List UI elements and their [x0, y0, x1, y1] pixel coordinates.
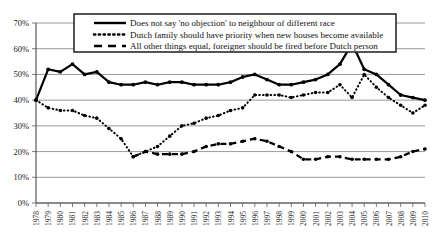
x-tick-label: 2006: [372, 211, 381, 226]
data-point: [326, 155, 330, 159]
data-point: [192, 83, 196, 87]
y-tick-label: 20%: [13, 147, 29, 157]
chart-canvas: 0%10%20%30%40%50%60%70% 1978197919801981…: [0, 0, 440, 244]
data-point: [95, 116, 99, 120]
x-tick-label: 2002: [324, 211, 333, 226]
data-point: [289, 83, 293, 87]
data-point: [265, 93, 269, 97]
data-point: [156, 152, 160, 156]
data-point: [83, 73, 87, 77]
x-tick-label: 1980: [56, 211, 65, 226]
data-point: [399, 103, 403, 107]
x-tick-label: 1981: [68, 211, 77, 226]
data-point: [180, 152, 184, 156]
y-tick-label: 0%: [18, 198, 29, 208]
data-point: [168, 80, 172, 84]
data-point: [374, 73, 378, 77]
data-point: [265, 78, 269, 82]
y-tick-label: 50%: [13, 69, 29, 79]
data-point: [387, 96, 391, 100]
y-tick-label: 70%: [13, 18, 29, 28]
data-point: [289, 150, 293, 154]
data-point: [423, 103, 427, 107]
x-tick-label: 2010: [421, 211, 430, 226]
data-point: [229, 142, 233, 146]
data-point: [350, 96, 354, 100]
data-point: [168, 152, 172, 156]
x-tick-label: 1989: [166, 211, 175, 226]
x-tick-label: 1978: [32, 211, 41, 226]
x-tick-label: 1987: [141, 211, 150, 226]
data-point: [375, 157, 379, 161]
x-tick-label: 1999: [287, 211, 296, 226]
data-point: [217, 114, 221, 118]
data-point: [289, 96, 293, 100]
data-point: [107, 80, 111, 84]
x-tick-label: 1993: [214, 211, 223, 226]
legend-label: Dutch family should have priority when n…: [130, 30, 383, 40]
y-tick-label: 40%: [13, 95, 29, 105]
data-point: [423, 98, 427, 102]
data-point: [46, 67, 50, 71]
data-point: [180, 124, 184, 128]
legend-label: All other things equal, foreigner should…: [130, 41, 378, 51]
chart-legend: Does not say 'no objection' to neighbour…: [74, 14, 396, 52]
data-point: [411, 150, 415, 154]
data-point: [338, 155, 342, 159]
data-point: [362, 67, 366, 71]
data-point: [338, 83, 342, 87]
data-point: [253, 137, 257, 141]
data-point: [168, 134, 172, 138]
data-point: [204, 116, 208, 120]
x-tick-label: 2004: [348, 211, 357, 226]
data-point: [277, 93, 281, 97]
data-point: [411, 96, 415, 100]
data-point: [338, 62, 342, 66]
x-tick-label: 1984: [105, 211, 114, 226]
data-point: [59, 109, 63, 113]
x-tick-label: 1995: [239, 211, 248, 226]
x-tick-label: 1982: [81, 211, 90, 226]
y-tick-label: 10%: [13, 172, 29, 182]
data-point: [302, 157, 306, 161]
data-point: [119, 137, 123, 141]
x-tick-label: 1990: [178, 211, 187, 226]
data-point: [119, 83, 123, 87]
data-point: [362, 157, 366, 161]
data-point: [241, 139, 245, 143]
data-point: [302, 93, 306, 97]
x-tick-label: 2005: [360, 211, 369, 226]
data-point: [131, 155, 135, 159]
data-point: [204, 145, 208, 149]
data-point: [217, 142, 221, 146]
data-point: [192, 150, 196, 154]
data-point: [253, 93, 257, 97]
x-tick-label: 2008: [397, 211, 406, 226]
data-point: [387, 157, 391, 161]
x-tick-label: 1985: [117, 211, 126, 226]
x-tick-label: 1998: [275, 211, 284, 226]
data-point: [156, 145, 160, 149]
data-point: [71, 62, 75, 66]
data-point: [144, 150, 148, 154]
data-point: [216, 83, 220, 87]
data-point: [326, 73, 330, 77]
data-point: [253, 73, 257, 77]
x-tick-label: 2003: [336, 211, 345, 226]
data-point: [387, 83, 391, 87]
data-point: [156, 83, 160, 87]
line-chart: 0%10%20%30%40%50%60%70% 1978197919801981…: [0, 0, 440, 244]
data-point: [192, 121, 196, 125]
x-tick-label: 1986: [129, 211, 138, 226]
data-point: [204, 83, 208, 87]
x-tick-label: 1991: [190, 211, 199, 226]
data-point: [265, 139, 269, 143]
x-tick-label: 2001: [312, 211, 321, 226]
data-point: [399, 155, 403, 159]
data-point: [241, 106, 245, 110]
data-point: [58, 70, 62, 74]
data-point: [34, 98, 38, 102]
data-point: [180, 80, 184, 84]
y-tick-label: 30%: [13, 121, 29, 131]
data-point: [314, 157, 318, 161]
